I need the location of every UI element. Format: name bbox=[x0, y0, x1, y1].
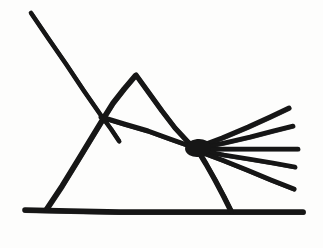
line-drawing: Hand-drawn line figure Black ink line dr… bbox=[0, 0, 323, 248]
triangle-left-leg-texture bbox=[47, 77, 136, 211]
ink-strokes-layer bbox=[25, 13, 304, 213]
figure-canvas: Hand-drawn line figure Black ink line dr… bbox=[0, 0, 323, 248]
long-diagonal-texture bbox=[32, 14, 120, 142]
baseline-texture bbox=[26, 211, 304, 213]
